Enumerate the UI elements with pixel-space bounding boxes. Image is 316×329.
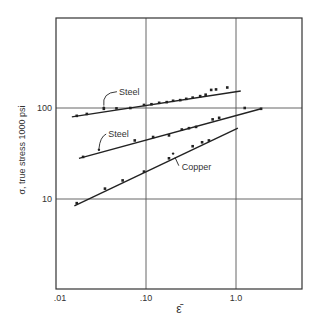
data-point [75,115,78,118]
series-copper: Copper [74,128,238,206]
data-point [165,101,168,104]
true-stress-strain-chart: .01.101.010100 SteelSteelCopper σ, true … [0,0,316,329]
data-point [215,88,218,91]
plot-frame [56,18,302,289]
arrowhead-icon [172,152,174,154]
data-point [152,136,155,139]
data-series: SteelSteelCopper [72,86,263,206]
data-point [150,103,153,106]
x-axis-label: ε̄ [176,302,183,316]
data-point [121,179,124,182]
fit-line [79,109,261,159]
data-point [210,89,213,92]
fit-line [72,91,241,117]
arrowhead-icon [103,106,105,108]
axis-ticks: .01.101.010100 [37,103,242,303]
leader-arrow-icon [175,158,179,166]
series-steel: Steel [72,86,241,117]
data-point [199,95,202,98]
data-point [208,139,211,142]
data-point [172,99,175,102]
data-point [226,86,229,89]
x-tick-label: .10 [140,293,153,303]
data-point [143,104,146,107]
series-label: Steel [119,87,140,97]
data-point [129,107,132,110]
data-point [211,118,214,121]
data-point [143,170,146,173]
x-tick-label: .01 [54,293,67,303]
leader-arrow-icon [99,134,106,149]
data-point [168,157,171,160]
data-point [86,113,89,116]
x-tick-label: 1.0 [230,293,243,303]
data-point [218,117,221,120]
data-point [82,156,85,159]
data-point [168,134,171,137]
data-point [115,107,118,110]
y-axis-label: σ, true stress 1000 psi [17,105,27,194]
y-tick-label: 10 [42,194,52,204]
grid-lines [56,18,302,289]
series-label: Steel [108,129,129,139]
data-point [181,128,184,131]
series-steel: Steel [79,107,262,159]
y-tick-label: 100 [37,103,52,113]
data-point [133,139,136,142]
data-point [243,107,246,110]
data-point [188,127,191,130]
data-point [158,102,161,105]
data-point [195,126,198,129]
data-point [260,107,263,110]
data-point [179,99,182,102]
data-point [75,202,78,205]
data-point [191,96,194,99]
series-label: Copper [182,162,212,172]
fit-line [74,128,238,206]
leader-arrow-icon [104,92,117,106]
data-point [204,93,207,96]
data-point [185,98,188,101]
data-point [191,145,194,148]
arrowhead-icon [98,149,100,151]
data-point [201,141,204,144]
data-point [104,187,107,190]
